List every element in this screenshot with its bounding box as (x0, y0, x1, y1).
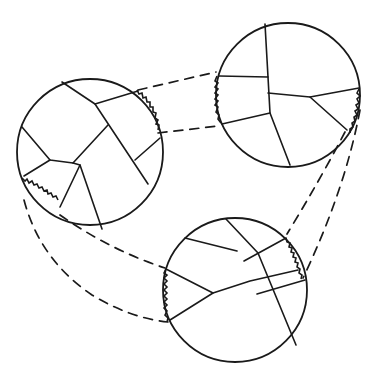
connection-topright-to-bottom (287, 110, 360, 278)
connection-left-to-bottom (24, 200, 168, 322)
topright-grain-circle (215, 23, 360, 167)
left-grain-circle (17, 79, 163, 229)
bottom-grain-circle (163, 218, 307, 362)
grain-diagram (0, 0, 381, 382)
